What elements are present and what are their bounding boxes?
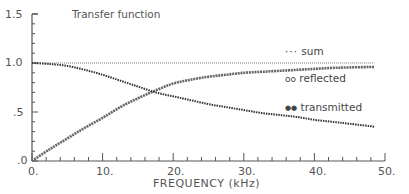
- y-tick-1.0: 1.0: [5, 57, 23, 68]
- legend-transmitted-label: transmitted: [301, 101, 363, 113]
- dotted-line-symbol-icon: ···: [285, 45, 298, 57]
- axes: [32, 14, 385, 161]
- x-tick-40: 40.: [309, 166, 327, 177]
- x-tick-30: 30.: [238, 166, 256, 177]
- plot-area: [0, 0, 409, 194]
- legend-sum-label: sum: [301, 45, 323, 57]
- x-axis-label: FREQUENCY (kHz): [153, 178, 260, 189]
- x-tick-10: 10.: [96, 166, 114, 177]
- legend-reflected: oo reflected: [285, 73, 346, 84]
- y-tick-0: .0: [17, 155, 28, 166]
- y-tick-0.5: .5: [13, 107, 24, 118]
- x-tick-50: 50.: [378, 166, 396, 177]
- filled-dot-symbol-icon: ●●: [285, 104, 297, 112]
- legend-sum: ··· sum: [285, 46, 324, 57]
- legend-transmitted: ●● transmitted: [285, 102, 362, 113]
- transfer-function-chart: Transfer function 1.5 1.0 .5 .0 0. 10. 2…: [0, 0, 409, 194]
- x-tick-0: 0.: [28, 166, 39, 177]
- y-tick-1.5: 1.5: [5, 9, 23, 20]
- legend-reflected-label: reflected: [299, 72, 346, 84]
- chart-title: Transfer function: [72, 9, 160, 20]
- open-circle-symbol-icon: oo: [285, 74, 296, 84]
- x-tick-20: 20.: [167, 166, 185, 177]
